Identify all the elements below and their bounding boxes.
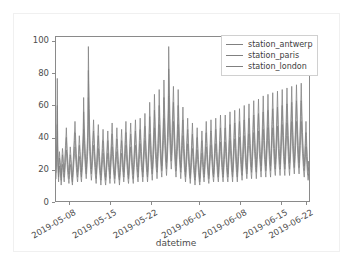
legend[interactable]: station_antwerp station_paris station_lo… [221, 35, 318, 76]
x-tick-mark [110, 202, 111, 205]
x-tick-mark [281, 202, 282, 205]
x-tick-mark [151, 202, 152, 205]
legend-line-icon [226, 44, 243, 45]
legend-item-station-london: station_london [226, 61, 312, 72]
x-tick-mark [199, 202, 200, 205]
y-tick-label: 60 [0, 101, 49, 110]
legend-label: station_london [248, 63, 307, 71]
legend-line-icon [226, 66, 243, 67]
x-tick-mark [240, 202, 241, 205]
legend-label: station_paris [248, 52, 299, 60]
y-tick-label: 40 [0, 133, 49, 142]
y-tick-label: 0 [0, 198, 49, 207]
x-tick-mark [69, 202, 70, 205]
legend-label: station_antwerp [248, 41, 312, 49]
legend-line-icon [226, 55, 243, 56]
y-tick-label: 100 [0, 36, 49, 45]
y-tick-label: 80 [0, 69, 49, 78]
legend-item-station-antwerp: station_antwerp [226, 39, 312, 50]
x-axis-label: datetime [0, 238, 352, 248]
y-tick-mark [52, 202, 55, 203]
y-tick-label: 20 [0, 165, 49, 174]
legend-item-station-paris: station_paris [226, 50, 312, 61]
matplotlib-figure: 020406080100 2019-05-082019-05-152019-05… [0, 0, 352, 272]
x-tick-mark [306, 202, 307, 205]
